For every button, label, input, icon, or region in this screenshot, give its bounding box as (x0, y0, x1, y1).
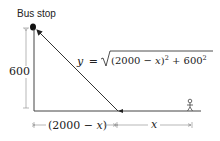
bus-stop-label: Bus stop (17, 8, 56, 19)
equation-radicand: (2000 − x)2 + 6002 (111, 54, 207, 66)
bus-stop-diagram: Bus stop 600 y = (2000 − x)2 + 6002 (200… (0, 0, 220, 141)
equation-equals: = (89, 55, 98, 68)
bottom-right-dimension-label: x (151, 118, 158, 131)
vertical-dimension-label: 600 (9, 65, 30, 78)
equation: y = (76, 55, 98, 68)
turn-point-arrow-icon (118, 109, 123, 113)
bus-stop-marker-icon (30, 24, 36, 31)
person-icon (187, 99, 193, 111)
equation-lhs: y (76, 55, 84, 68)
bottom-left-dimension-label: (2000 − x) (48, 119, 107, 132)
hypotenuse-path (37, 30, 118, 111)
